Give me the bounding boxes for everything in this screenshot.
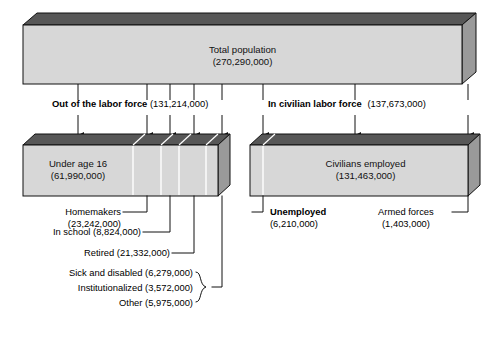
institutionalized-label: Institutionalized (3,572,000) (0, 282, 193, 294)
total-population-label: Total population (23, 44, 462, 56)
out-of-labor-force-value: (131,214,000) (150, 98, 208, 109)
in-civilian-labor-force-value: (137,673,000) (364, 98, 425, 109)
total-population-text: Total population (270,290,000) (23, 44, 462, 68)
unemployed-label: Unemployed (270, 206, 326, 218)
sick-and-disabled-label: Sick and disabled (6,279,000) (0, 267, 193, 279)
labor-force-breakdown-diagram: Total population (270,290,000) Out of th… (0, 0, 494, 343)
other-label: Other (5,975,000) (0, 297, 193, 309)
retired-label: Retired (21,332,000) (0, 247, 170, 259)
homemakers-label: Homemakers (0, 206, 121, 218)
under-age-16-text: Under age 16 (61,990,000) (23, 158, 133, 182)
civilians-employed-text: Civilians employed (131,463,000) (263, 158, 468, 182)
armed-forces-label: Armed forces (378, 206, 434, 218)
under-age-16-value: (61,990,000) (23, 170, 133, 182)
civilians-employed-value: (131,463,000) (263, 170, 468, 182)
branch-arrows (78, 115, 468, 135)
out-of-labor-force-label: Out of the labor force (131,214,000) (52, 98, 208, 110)
in-civilian-labor-force-label: In civilian labor force (137,673,000) (268, 98, 426, 110)
civilians-employed-label: Civilians employed (263, 158, 468, 170)
armed-forces-value: (1,403,000) (382, 218, 430, 230)
in-school-label: In school (8,824,000) (0, 226, 141, 238)
unemployed-value: (6,210,000) (270, 218, 318, 230)
total-population-value: (270,290,000) (23, 56, 462, 68)
group-brace (196, 272, 206, 302)
under-age-16-label: Under age 16 (23, 158, 133, 170)
